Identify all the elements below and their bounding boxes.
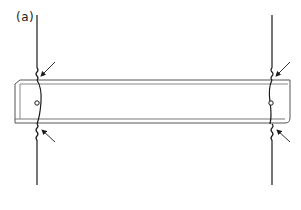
arrow-right-top <box>276 62 290 76</box>
arrow-left-top <box>41 62 55 76</box>
beam <box>15 80 290 123</box>
right-pin <box>269 101 273 105</box>
diagram-canvas <box>0 0 301 210</box>
left-wire <box>36 15 41 185</box>
right-wire <box>269 15 273 185</box>
suspended-beam-diagram: (a) <box>0 0 301 210</box>
arrow-right-bottom <box>277 130 290 142</box>
arrow-left-bottom <box>42 130 55 142</box>
left-pin <box>35 101 39 105</box>
